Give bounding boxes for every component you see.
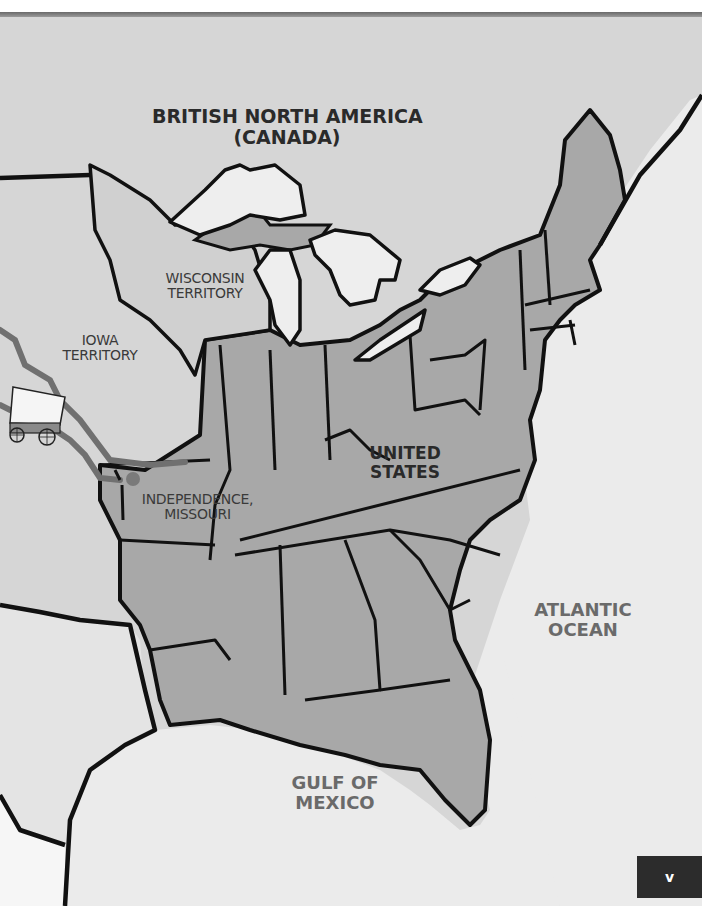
- lake-huron: [310, 230, 400, 305]
- label-british-north-america: BRITISH NORTH AMERICA (CANADA): [152, 106, 422, 148]
- label-iowa-line2: TERRITORY: [45, 348, 155, 363]
- label-canada-line2: (CANADA): [152, 127, 422, 148]
- label-atlantic-line2: OCEAN: [528, 620, 638, 640]
- covered-wagon-icon: [10, 387, 65, 445]
- label-wisconsin-line2: TERRITORY: [145, 286, 265, 301]
- label-iowa-territory: IOWA TERRITORY: [45, 333, 155, 364]
- label-independence-missouri: INDEPENDENCE, MISSOURI: [125, 492, 270, 523]
- label-gulf-line1: GULF OF: [280, 773, 390, 793]
- label-british-north-america-line1: BRITISH NORTH AMERICA: [152, 106, 422, 127]
- label-independence-line1: INDEPENDENCE,: [125, 492, 270, 507]
- label-united-states: UNITED STATES: [350, 444, 460, 481]
- label-us-line1: UNITED: [350, 444, 460, 463]
- label-wisconsin-territory: WISCONSIN TERRITORY: [145, 271, 265, 302]
- label-atlantic-ocean: ATLANTIC OCEAN: [528, 600, 638, 640]
- page-number: v: [665, 869, 674, 885]
- label-wisconsin-line1: WISCONSIN: [145, 271, 265, 286]
- page-number-badge: v: [637, 856, 702, 898]
- label-iowa-line1: IOWA: [45, 333, 155, 348]
- label-independence-line2: MISSOURI: [125, 507, 270, 522]
- label-atlantic-line1: ATLANTIC: [528, 600, 638, 620]
- label-gulf-of-mexico: GULF OF MEXICO: [280, 773, 390, 813]
- label-gulf-line2: MEXICO: [280, 793, 390, 813]
- city-dot-icon: [126, 472, 140, 486]
- label-us-line2: STATES: [350, 463, 460, 482]
